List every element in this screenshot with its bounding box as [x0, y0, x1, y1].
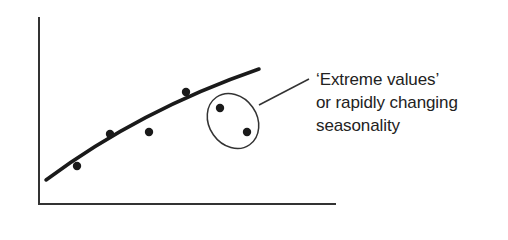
callout-leader-line: [259, 79, 309, 105]
callout-line-3: seasonality: [316, 114, 458, 137]
data-point: [182, 88, 190, 96]
callout-line-1: ‘Extreme values’: [316, 68, 458, 91]
data-point: [145, 128, 153, 136]
outlier-point: [216, 104, 224, 112]
data-point: [73, 162, 81, 170]
outlier-ellipse: [197, 83, 270, 158]
data-point: [106, 130, 114, 138]
callout-line-2: or rapidly changing: [316, 91, 458, 114]
data-points: [73, 88, 251, 170]
outlier-point: [243, 128, 251, 136]
callout-label: ‘Extreme values’ or rapidly changing sea…: [316, 68, 458, 137]
